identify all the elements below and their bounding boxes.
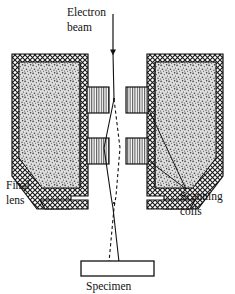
diagram-canvas: Electron beam Final lens Scanning coils … bbox=[0, 0, 235, 294]
left-lens-core bbox=[19, 62, 80, 188]
beam-dashed-deflected-path bbox=[109, 99, 120, 262]
electron-beam-label-line2: beam bbox=[67, 21, 92, 33]
scanning-coil-upper-right bbox=[126, 87, 148, 113]
specimen-block bbox=[81, 261, 154, 276]
scanning-coils-label-line2: coils bbox=[180, 205, 202, 217]
sem-lens-diagram: Electron beam Final lens Scanning coils … bbox=[0, 0, 235, 294]
right-lens-core bbox=[155, 62, 216, 188]
beam-crossover-upper bbox=[113, 98, 115, 100]
scanning-coil-lower-right bbox=[126, 138, 148, 164]
final-lens-label-line2: lens bbox=[6, 194, 25, 206]
beam-crossover-lower bbox=[113, 202, 115, 204]
specimen-label: Specimen bbox=[86, 280, 132, 293]
left-pole-piece-tip bbox=[40, 200, 88, 209]
beam-entry-path bbox=[113, 53, 114, 99]
final-lens-right bbox=[147, 54, 223, 209]
scanning-coil-upper-left bbox=[87, 87, 109, 113]
electron-beam-label-line1: Electron bbox=[67, 6, 106, 18]
scanning-coils-label-line1: Scanning bbox=[180, 190, 223, 203]
scanning-coils-group bbox=[87, 87, 148, 164]
final-lens-label-line1: Final bbox=[6, 179, 30, 191]
